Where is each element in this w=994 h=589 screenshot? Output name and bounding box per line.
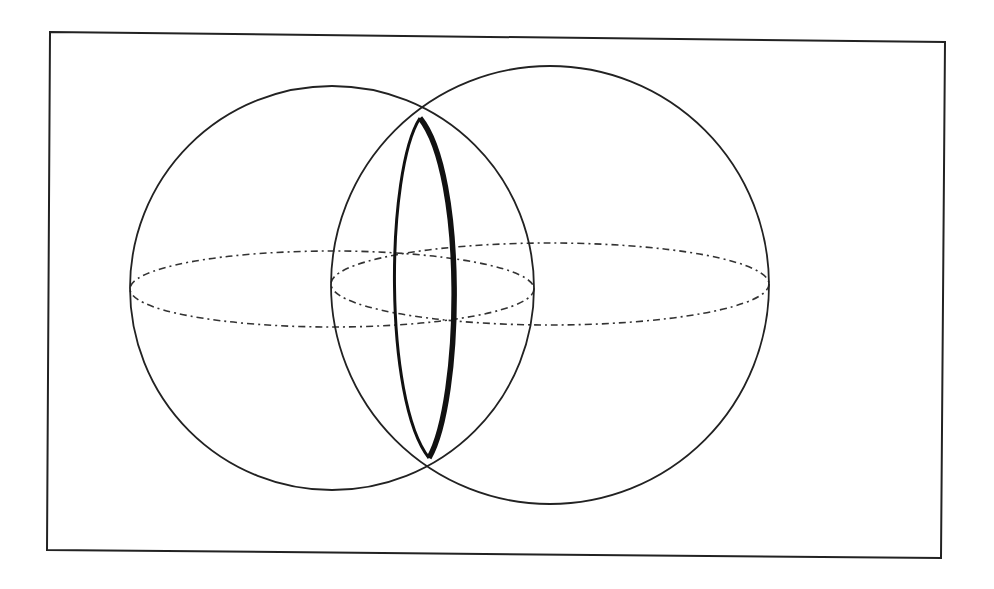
diagram-figure — [0, 0, 994, 589]
intersection-circle-front — [420, 118, 454, 458]
right-sphere-outline — [331, 66, 769, 504]
intersection-circle-back — [394, 118, 429, 458]
intersecting-spheres-diagram — [0, 0, 994, 589]
figure-frame — [47, 32, 945, 558]
